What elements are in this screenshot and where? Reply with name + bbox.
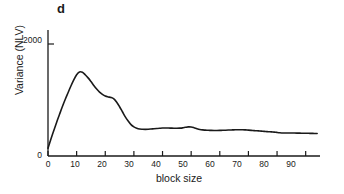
tick-marks — [48, 44, 306, 156]
figure-panel: d Variance (NLV) block size 2000 0 0 10 … — [0, 0, 344, 194]
plot-canvas — [0, 0, 344, 194]
axis-spines — [48, 30, 320, 156]
variance-line — [48, 72, 317, 148]
